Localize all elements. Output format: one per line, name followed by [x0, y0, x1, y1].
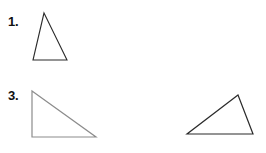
figure-item-4: 4.	[133, 77, 266, 153]
isosceles-triangle-shape	[30, 8, 74, 64]
scalene-triangle-shape	[183, 91, 255, 139]
triangle-3-outline	[32, 91, 96, 137]
figure-label-3: 3.	[8, 89, 18, 102]
figure-label-1: 1.	[8, 15, 18, 28]
figure-item-2: 2.	[133, 0, 266, 77]
figure-item-1: 1.	[0, 0, 133, 77]
right-triangle-shape	[26, 87, 100, 143]
triangle-4-outline	[187, 95, 253, 134]
triangle-1-outline	[33, 13, 67, 60]
figure-item-3: 3.	[0, 77, 133, 153]
worksheet-canvas: 1. 2. 3. 4.	[0, 0, 266, 153]
